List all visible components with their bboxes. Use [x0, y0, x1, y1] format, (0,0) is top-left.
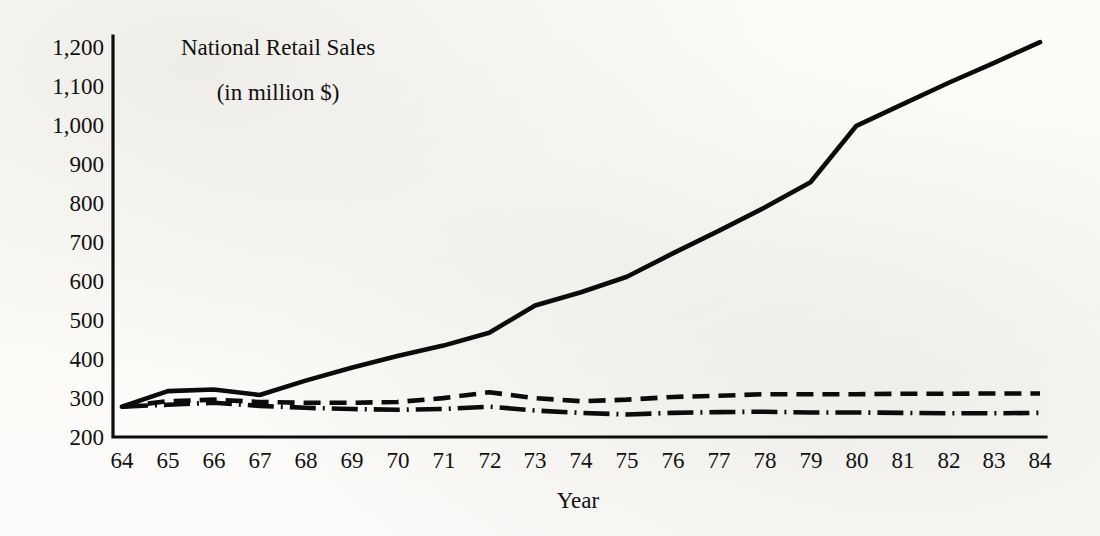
- x-axis-tick-labels: 64 65 66 67 68 69 70 71 72 73 74 75 76 7…: [111, 448, 1053, 473]
- x-tick-label: 72: [479, 448, 502, 473]
- x-tick-label: 82: [938, 448, 961, 473]
- x-tick-label: 84: [1029, 448, 1053, 473]
- x-tick-label: 74: [570, 448, 594, 473]
- chart-title: National Retail Sales: [181, 35, 375, 60]
- x-tick-label: 65: [157, 448, 180, 473]
- y-tick-label: 400: [70, 347, 105, 372]
- y-tick-label: 600: [70, 269, 105, 294]
- line-chart-canvas: 1,200 1,100 1,000 900 800 700 600 500 40…: [0, 0, 1100, 536]
- x-tick-label: 66: [203, 448, 226, 473]
- x-tick-label: 68: [295, 448, 318, 473]
- x-tick-label: 80: [846, 448, 869, 473]
- x-axis-title: Year: [557, 488, 600, 513]
- y-tick-label: 200: [70, 425, 105, 450]
- chart-title-block: National Retail Sales (in million $): [181, 35, 375, 105]
- y-tick-label: 800: [70, 191, 105, 216]
- y-tick-label: 1,100: [52, 74, 104, 99]
- x-tick-label: 70: [387, 448, 410, 473]
- x-tick-label: 78: [754, 448, 777, 473]
- x-tick-label: 83: [983, 448, 1006, 473]
- series-line-dashdot: [122, 403, 1040, 415]
- x-tick-label: 73: [524, 448, 547, 473]
- y-tick-label: 300: [70, 386, 105, 411]
- chart-figure: 1,200 1,100 1,000 900 800 700 600 500 40…: [0, 0, 1100, 536]
- x-tick-label: 79: [800, 448, 823, 473]
- x-tick-label: 67: [249, 448, 272, 473]
- y-tick-label: 1,000: [52, 113, 104, 138]
- y-axis-tick-labels: 1,200 1,100 1,000 900 800 700 600 500 40…: [52, 35, 104, 450]
- x-tick-label: 76: [662, 448, 685, 473]
- y-tick-label: 500: [70, 308, 105, 333]
- x-tick-label: 71: [433, 448, 456, 473]
- x-tick-label: 77: [708, 448, 731, 473]
- y-tick-label: 900: [70, 152, 105, 177]
- x-tick-label: 81: [892, 448, 915, 473]
- y-tick-label: 1,200: [52, 35, 104, 60]
- chart-subtitle: (in million $): [217, 80, 340, 105]
- x-tick-label: 75: [616, 448, 639, 473]
- x-tick-label: 69: [341, 448, 364, 473]
- y-tick-label: 700: [70, 230, 105, 255]
- x-tick-label: 64: [111, 448, 135, 473]
